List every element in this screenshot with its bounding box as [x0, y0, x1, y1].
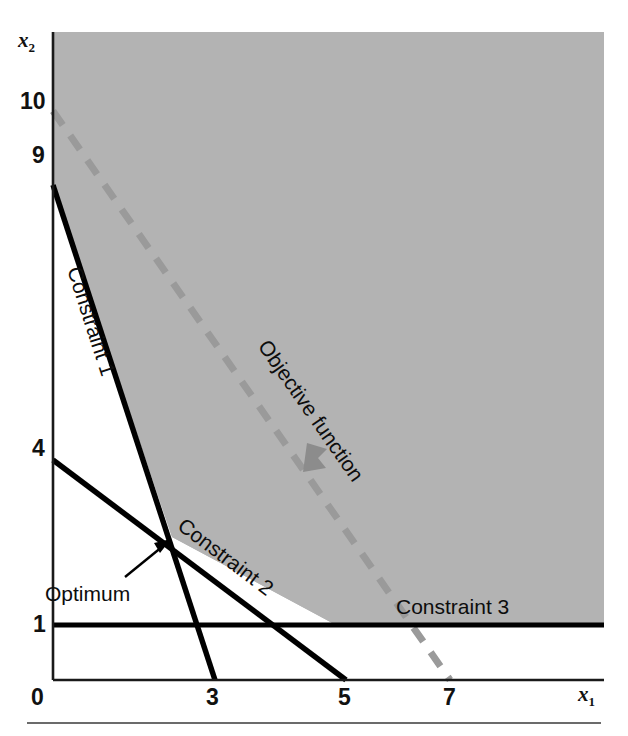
optimum-label: Optimum	[45, 583, 130, 604]
y-axis-label: x2	[18, 30, 35, 54]
feasible-region	[53, 32, 604, 680]
x-axis-label-sub: 1	[589, 694, 596, 709]
x-tick-3: 3	[206, 686, 219, 709]
y-tick-1: 1	[33, 613, 46, 636]
y-axis-label-text: x	[18, 28, 29, 52]
y-axis-label-sub: 2	[29, 40, 36, 55]
y-tick-9: 9	[32, 144, 45, 167]
y-tick-0: 0	[31, 686, 44, 709]
optimum-arrow	[125, 539, 171, 577]
x-tick-5: 5	[338, 686, 351, 709]
y-tick-4: 4	[32, 437, 45, 460]
x-axis-label-text: x	[578, 682, 589, 706]
x-tick-7: 7	[443, 686, 456, 709]
constraint-3-label: Constraint 3	[396, 596, 509, 617]
x-axis-label: x1	[578, 684, 595, 708]
y-tick-10: 10	[20, 90, 46, 113]
linear-programming-figure: x2 x1 10 9 4 1 0 3 5 7 Constraint 1 Cons…	[0, 0, 628, 736]
